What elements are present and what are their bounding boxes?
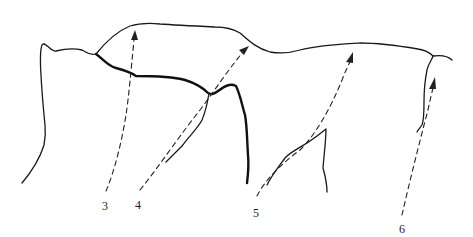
arrow-5-head: [346, 52, 353, 63]
line-drawing: [0, 0, 473, 237]
arrow-6-head: [429, 77, 436, 89]
diagram-figure: 3 4 5 6: [0, 0, 473, 237]
top-contour: [44, 23, 452, 60]
left-contour: [22, 44, 45, 183]
arrow-5-label: 5: [253, 207, 259, 219]
arrow-3-shaft: [106, 40, 134, 191]
arrow-6-shaft: [402, 88, 433, 215]
arrow-3-head: [131, 30, 138, 40]
arrow-3-label: 3: [102, 200, 108, 212]
right-contour: [417, 56, 433, 132]
inner-line-5: [267, 129, 327, 192]
arrow-6-label: 6: [399, 223, 405, 235]
arrow-5-shaft: [257, 62, 350, 196]
arrow-4-shaft: [140, 52, 243, 190]
arrow-4-label: 4: [135, 199, 141, 211]
inner-line-4: [166, 93, 209, 162]
thick-boundary: [96, 54, 248, 183]
arrow-4-head: [239, 46, 249, 55]
